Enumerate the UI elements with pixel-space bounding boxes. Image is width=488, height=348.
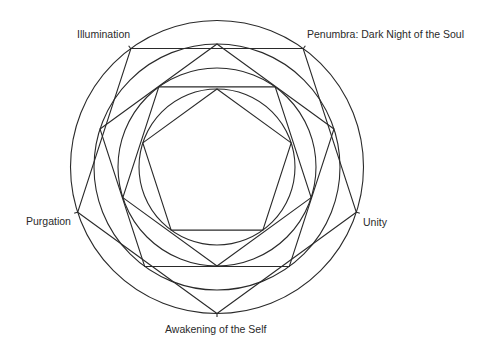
label-penumbra-dark-night-of-the-soul: Penumbra: Dark Night of the Soul xyxy=(307,29,464,40)
second-circle xyxy=(94,44,340,290)
concentric-circles xyxy=(71,21,364,314)
label-awakening-of-the-self: Awakening of the Self xyxy=(165,324,266,335)
label-purgation: Purgation xyxy=(26,216,71,227)
third-circle xyxy=(118,68,316,266)
nested-pentagons xyxy=(78,44,357,314)
inner-pentagon-point-up xyxy=(143,89,291,230)
label-unity: Unity xyxy=(363,217,387,228)
label-illumination: Illumination xyxy=(77,29,130,40)
inner-circle xyxy=(139,89,295,245)
vertex-tick-illumination xyxy=(129,46,131,49)
mystic-way-diagram xyxy=(0,0,488,348)
third-pentagon-point-down xyxy=(123,87,311,266)
second-pentagon-point-up xyxy=(100,44,334,267)
outer-circle xyxy=(71,21,364,314)
vertex-tick-penumbra xyxy=(303,46,305,49)
